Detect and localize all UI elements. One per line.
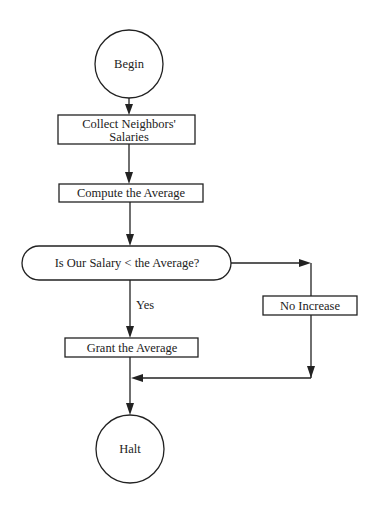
no-increase-label: No Increase [280, 299, 340, 313]
begin-node: Begin [95, 30, 163, 98]
compute-label: Compute the Average [77, 186, 186, 200]
decision-node: Is Our Salary < the Average? [22, 246, 231, 280]
halt-node: Halt [96, 415, 164, 483]
grant-label: Grant the Average [87, 341, 178, 355]
no-increase-node: No Increase [263, 296, 357, 315]
arrow-decision-yes: Yes [126, 280, 154, 338]
arrow-begin-collect [125, 98, 133, 115]
begin-label: Begin [114, 57, 145, 71]
flowchart: Begin Collect Neighbors' Salaries Comput… [0, 0, 382, 514]
arrow-collect-compute [125, 144, 133, 184]
arrow-compute-decision [126, 202, 134, 246]
arrow-decision-no [231, 259, 311, 296]
yes-label: Yes [136, 298, 154, 312]
collect-label-line2: Salaries [109, 130, 149, 144]
collect-label-line1: Collect Neighbors' [82, 117, 176, 131]
decision-label: Is Our Salary < the Average? [55, 256, 200, 270]
arrow-grant-halt [126, 357, 134, 415]
halt-label: Halt [119, 442, 141, 456]
compute-node: Compute the Average [59, 184, 203, 202]
grant-node: Grant the Average [65, 338, 198, 357]
collect-node: Collect Neighbors' Salaries [58, 115, 195, 144]
